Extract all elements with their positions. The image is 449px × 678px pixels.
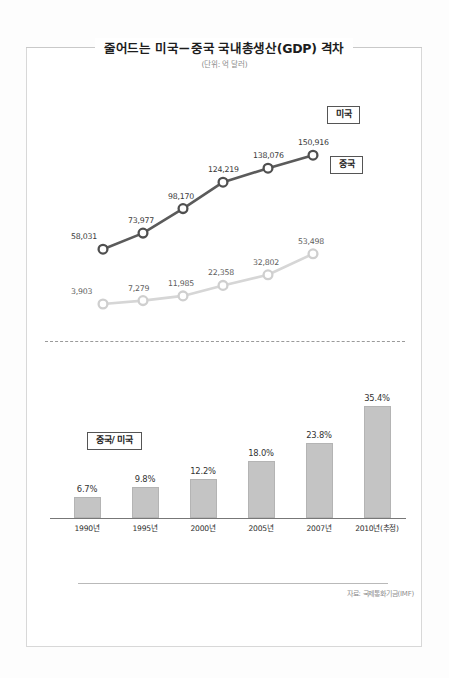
bar-axis-line: [50, 518, 406, 519]
bar-x-label: 1990년: [56, 522, 118, 533]
data-point-label: 7,279: [128, 284, 149, 293]
callout-ratio-label: 중국/ 미국: [96, 435, 133, 445]
data-point-marker: [309, 151, 318, 160]
title-rule-left: [26, 47, 95, 48]
infographic-root: 줄어드는 미국－중국 국내총생산(GDP) 격차 (단위: 억 달러) 58,0…: [0, 0, 449, 678]
data-point-marker: [99, 245, 108, 254]
callout-china: 중국: [330, 156, 363, 174]
bar-column: 6.7%: [58, 484, 116, 518]
bar-rect: [306, 443, 333, 518]
callout-usa-label: 미국: [336, 109, 351, 119]
page-subtitle: (단위: 억 달러): [0, 58, 449, 69]
data-point-label: 124,219: [208, 165, 239, 174]
bar-value-label: 18.0%: [232, 448, 290, 458]
page-title: 줄어드는 미국－중국 국내총생산(GDP) 격차: [95, 38, 353, 57]
bar-x-label: 2005년: [230, 522, 292, 533]
data-point-label: 11,985: [168, 279, 194, 288]
callout-ratio: 중국/ 미국: [87, 432, 142, 450]
data-point-label: 58,031: [71, 232, 97, 241]
bar-rect: [74, 497, 101, 518]
data-point-marker: [264, 270, 273, 279]
bar-x-label: 1995년: [114, 522, 176, 533]
bar-column: 18.0%: [232, 448, 290, 518]
data-point-label: 3,903: [71, 287, 92, 296]
data-point-label: 73,977: [128, 216, 154, 225]
bar-column: 12.2%: [174, 466, 232, 518]
bar-column: 35.4%: [348, 393, 406, 518]
bar-column: 23.8%: [290, 430, 348, 518]
bar-chart: 6.7%9.8%12.2%18.0%23.8%35.4% 1990년1995년2…: [50, 370, 410, 545]
bar-x-axis-labels: 1990년1995년2000년2005년2007년2010년(추정): [50, 522, 406, 538]
china-markers: [99, 249, 318, 308]
callout-china-label: 중국: [339, 159, 354, 169]
data-point-marker: [99, 300, 108, 309]
data-point-label: 150,916: [298, 138, 329, 147]
bar-rect: [190, 479, 217, 518]
section-divider: [45, 341, 405, 342]
source-note: 자료: 국제통화기금(IMF): [347, 588, 414, 598]
bar-value-label: 9.8%: [116, 474, 174, 484]
bar-rect: [364, 406, 391, 518]
bar-value-label: 12.2%: [174, 466, 232, 476]
data-point-label: 98,170: [168, 192, 194, 201]
title-rule-right: [353, 47, 422, 48]
data-point-marker: [219, 281, 228, 290]
bar-value-label: 6.7%: [58, 484, 116, 494]
bar-rect: [132, 487, 159, 518]
data-point-marker: [179, 204, 188, 213]
data-point-marker: [219, 178, 228, 187]
bar-x-label: 2007년: [288, 522, 350, 533]
data-point-marker: [264, 164, 273, 173]
data-point-marker: [139, 296, 148, 305]
bar-x-label: 2000년: [172, 522, 234, 533]
data-point-marker: [139, 229, 148, 238]
bar-value-label: 23.8%: [290, 430, 348, 440]
footer-rule: [78, 583, 388, 584]
bar-column: 9.8%: [116, 474, 174, 518]
china-line-path: [103, 254, 313, 304]
bar-x-label: 2010년(추정): [346, 522, 408, 533]
data-point-label: 138,076: [253, 151, 284, 160]
callout-usa: 미국: [327, 106, 360, 124]
data-point-marker: [309, 249, 318, 258]
data-point-label: 32,802: [253, 258, 279, 267]
title-band: 줄어드는 미국－중국 국내총생산(GDP) 격차: [26, 36, 422, 58]
bar-value-label: 35.4%: [348, 393, 406, 403]
data-point-label: 22,358: [208, 268, 234, 277]
data-point-marker: [179, 292, 188, 301]
bar-rect: [248, 461, 275, 518]
data-point-label: 53,498: [298, 237, 324, 246]
